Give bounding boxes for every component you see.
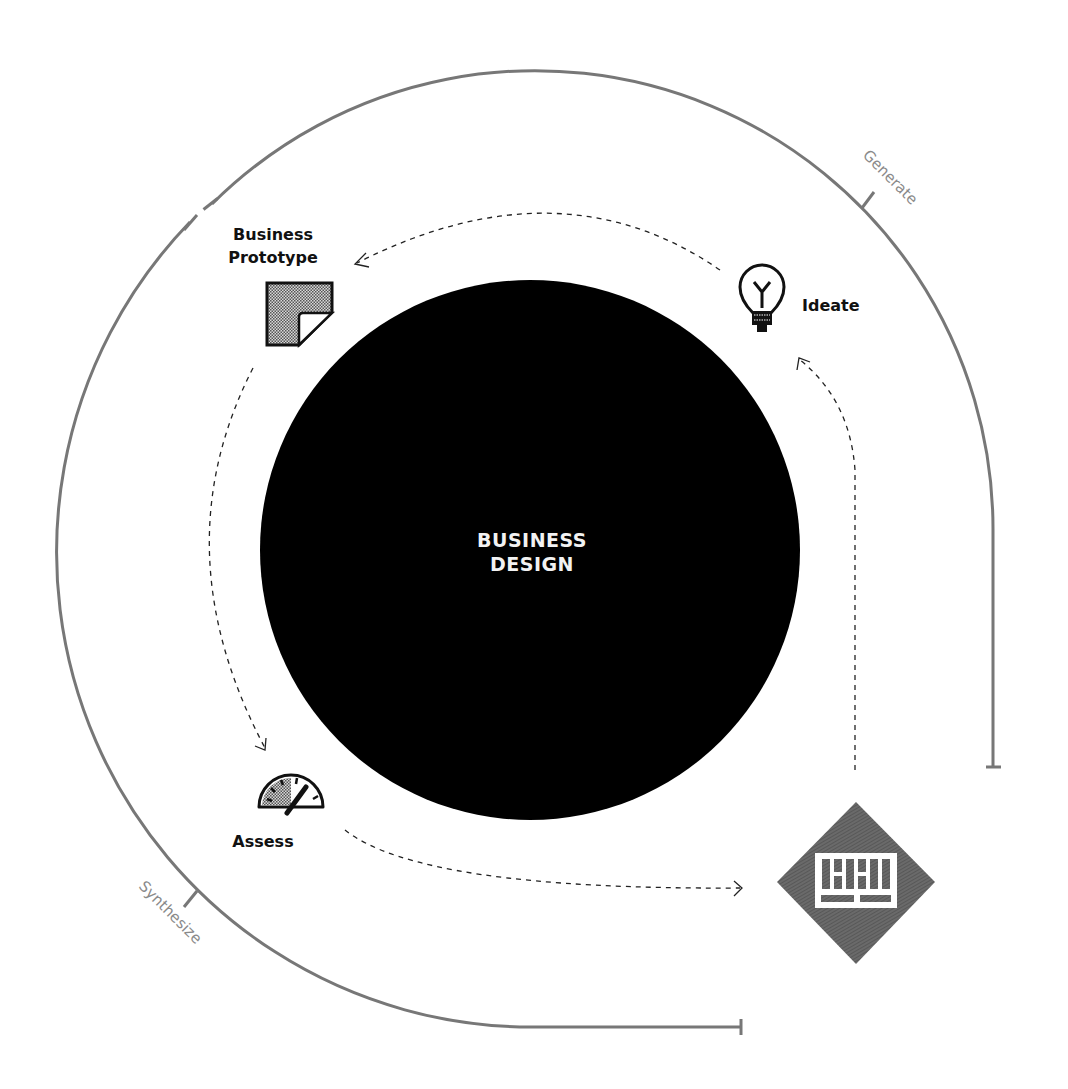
prototype-label-line2: Prototype <box>228 248 318 267</box>
lightbulb-icon <box>740 265 784 332</box>
arrow-prototype-to-assess <box>209 368 265 748</box>
step-ideate: Ideate <box>740 265 860 332</box>
core-label-line2: DESIGN <box>490 553 574 575</box>
arrow-diamond-to-ideate <box>800 360 855 770</box>
step-diamond <box>777 802 935 964</box>
gauge-icon <box>259 775 323 813</box>
arrow-ideate-to-prototype <box>357 213 720 270</box>
grid-board-icon <box>815 853 897 908</box>
core-label-line1: BUSINESS <box>477 529 587 551</box>
step-assess: Assess <box>232 775 323 851</box>
business-design-diagram: Generate Synthesize BUSINESS DESIGN Busi… <box>0 0 1068 1089</box>
prototype-label-line1: Business <box>233 225 313 244</box>
folded-paper-icon <box>267 283 332 345</box>
assess-label: Assess <box>232 832 293 851</box>
arrow-assess-to-diamond <box>345 830 740 888</box>
ideate-label: Ideate <box>802 296 860 315</box>
step-business-prototype: Business Prototype <box>228 225 332 345</box>
